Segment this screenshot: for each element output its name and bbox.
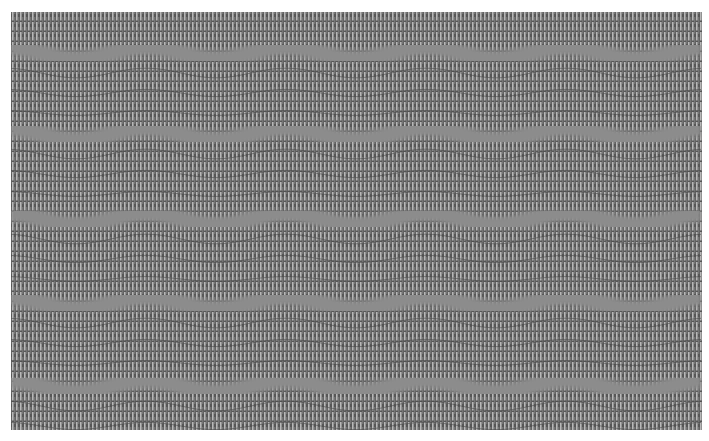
op-art-pattern (11, 12, 702, 430)
pattern-canvas (11, 12, 702, 430)
